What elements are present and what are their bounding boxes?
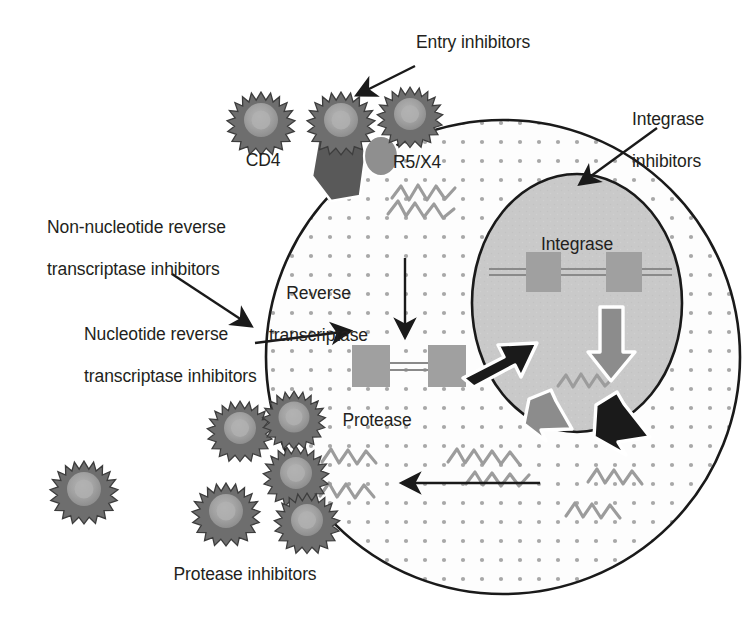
label-nrti: Nucleotide reverse transcriptase inhibit… bbox=[65, 303, 280, 408]
virion-released-lower bbox=[192, 483, 260, 546]
label-nnrti-line2: transcriptase inhibitors bbox=[47, 259, 220, 279]
virion-released-far-left bbox=[50, 461, 118, 524]
virion-budding-upper bbox=[207, 401, 272, 461]
cell-nucleus bbox=[472, 174, 682, 432]
label-reverse-transcriptase-line2: transcriptase bbox=[269, 325, 368, 345]
arrow-entry-inhibitors bbox=[357, 66, 415, 95]
label-integrase-inhibitors-line2: inhibitors bbox=[632, 151, 701, 171]
label-nrti-line1: Nucleotide reverse bbox=[84, 324, 228, 344]
label-reverse-transcriptase-line1: Reverse bbox=[286, 283, 350, 303]
label-entry-inhibitors: Entry inhibitors bbox=[378, 32, 568, 53]
label-nnrti-line1: Non-nucleotide reverse bbox=[47, 217, 226, 237]
virion-free-top-left bbox=[227, 92, 295, 155]
label-protease-inhibitors: Protease inhibitors bbox=[120, 564, 370, 585]
hiv-lifecycle-diagram: Entry inhibitors Integrase inhibitors CD… bbox=[0, 0, 755, 623]
label-coreceptor: R5/X4 bbox=[393, 152, 483, 173]
provirus-block-left bbox=[526, 252, 561, 292]
label-integrase-inhibitors: Integrase inhibitors bbox=[613, 88, 748, 193]
label-protease: Protease bbox=[322, 410, 432, 431]
provirus-block-right bbox=[606, 252, 642, 292]
label-nrti-line2: transcriptase inhibitors bbox=[84, 366, 257, 386]
label-nnrti: Non-nucleotide reverse transcriptase inh… bbox=[28, 196, 268, 301]
label-integrase: Integrase bbox=[522, 234, 632, 255]
label-integrase-inhibitors-line1: Integrase bbox=[632, 109, 704, 129]
label-cd4: CD4 bbox=[228, 150, 298, 171]
nuclear-envelope bbox=[472, 174, 682, 432]
dna-block-right bbox=[428, 345, 466, 387]
